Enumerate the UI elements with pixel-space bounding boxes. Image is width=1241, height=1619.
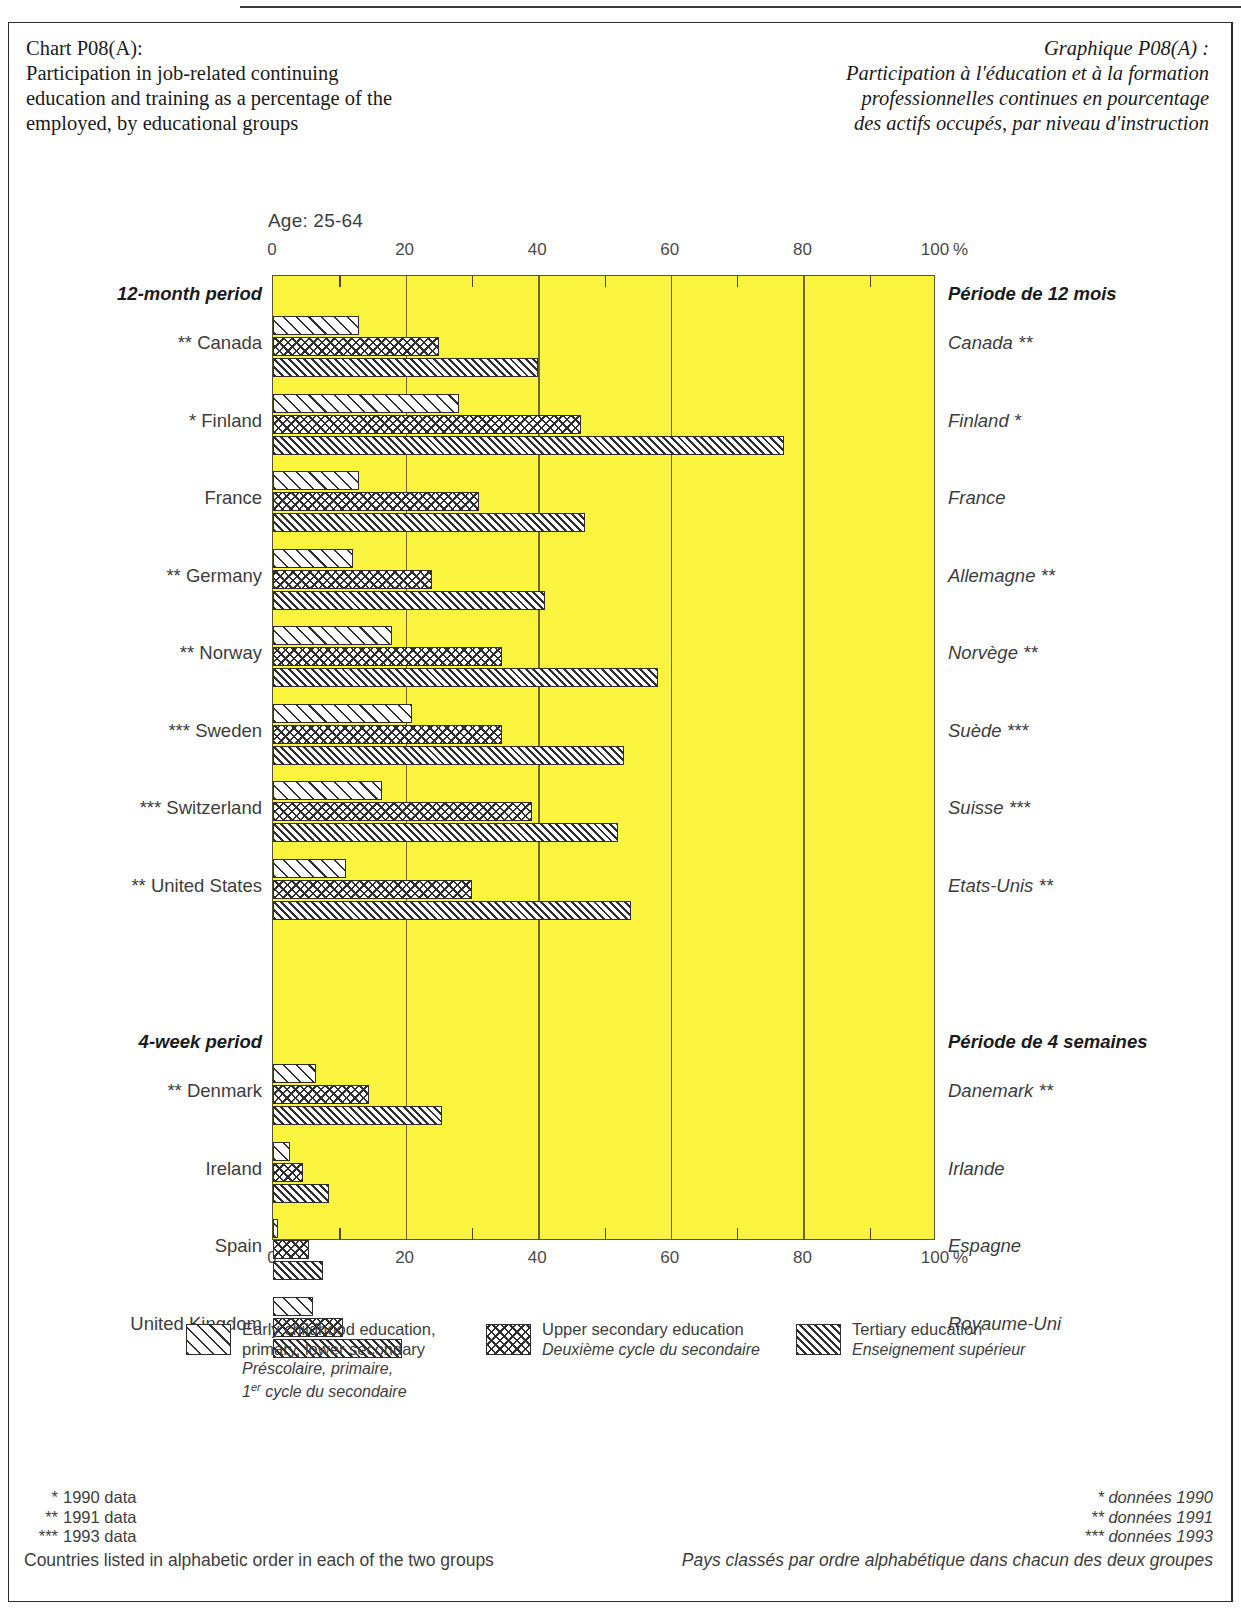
group-heading-en-2: 4-week period bbox=[139, 1031, 262, 1053]
bar-germany-diagonal-wide bbox=[273, 549, 353, 568]
footnote-fr-2: ** données 1991 bbox=[593, 1508, 1213, 1528]
country-label-en-finland: * Finland bbox=[189, 410, 262, 432]
bar-germany-checkerboard bbox=[273, 570, 432, 589]
bar-switzerland-diagonal-tight bbox=[273, 823, 618, 842]
legend-text-tertiary: Tertiary educationEnseignement supérieur bbox=[852, 1320, 1025, 1359]
bar-sweden-diagonal-wide bbox=[273, 704, 412, 723]
top-rule bbox=[240, 6, 1241, 8]
bar-finland-checkerboard bbox=[273, 415, 581, 434]
country-label-en-sweden: *** Sweden bbox=[168, 720, 262, 742]
legend-fr-early-childhood-2: 1er cycle du secondaire bbox=[242, 1378, 436, 1401]
bar-spain-diagonal-wide bbox=[273, 1219, 278, 1238]
legend-text-upper-secondary: Upper secondary educationDeuxième cycle … bbox=[542, 1320, 760, 1359]
minor-tick-70 bbox=[737, 1228, 738, 1239]
footnote-en-1: *1990 data bbox=[24, 1488, 564, 1508]
country-label-fr-allemagne: Allemagne ** bbox=[948, 565, 1055, 587]
minor-tick-90 bbox=[870, 1228, 871, 1239]
x-tick-label-20: 20 bbox=[395, 1248, 414, 1268]
country-label-fr-espagne: Espagne bbox=[948, 1235, 1021, 1257]
minor-tick-90 bbox=[870, 276, 871, 287]
legend-fr-early-childhood-1: Préscolaire, primaire, bbox=[242, 1359, 436, 1378]
x-axis-labels-bottom: 020406080100% bbox=[272, 1248, 935, 1268]
bar-ireland-diagonal-wide bbox=[273, 1142, 290, 1161]
x-tick-label-0: 0 bbox=[267, 240, 276, 260]
bar-ireland-checkerboard bbox=[273, 1163, 303, 1182]
bar-france-diagonal-tight bbox=[273, 513, 585, 532]
group-heading-en-1: 12-month period bbox=[117, 283, 262, 305]
x-tick-label-60: 60 bbox=[660, 1248, 679, 1268]
country-label-en-switzerland: *** Switzerland bbox=[140, 797, 262, 819]
age-range-label: Age: 25-64 bbox=[268, 210, 363, 232]
x-tick-label-100: 100 bbox=[921, 240, 949, 260]
bar-spain-diagonal-tight bbox=[273, 1261, 323, 1280]
legend-swatch-tertiary bbox=[796, 1324, 841, 1355]
footnotes-french: * données 1990** données 1991*** données… bbox=[593, 1488, 1213, 1570]
bar-united-states-diagonal-tight bbox=[273, 901, 631, 920]
footnote-en-stars-3: *** bbox=[24, 1527, 58, 1547]
x-tick-label-80: 80 bbox=[793, 1248, 812, 1268]
group-heading-fr-1: Période de 12 mois bbox=[948, 283, 1117, 305]
bar-norway-checkerboard bbox=[273, 647, 502, 666]
bar-spain-checkerboard bbox=[273, 1240, 309, 1259]
minor-tick-30 bbox=[472, 276, 473, 287]
bar-united-kingdom-diagonal-wide bbox=[273, 1297, 313, 1316]
gridline-60 bbox=[671, 276, 672, 1239]
bar-france-diagonal-wide bbox=[273, 471, 359, 490]
title-en-line-3: education and training as a percentage o… bbox=[26, 86, 586, 111]
bar-switzerland-checkerboard bbox=[273, 802, 532, 821]
country-label-fr-finland: Finland * bbox=[948, 410, 1021, 432]
bar-sweden-checkerboard bbox=[273, 725, 502, 744]
legend-en-early-childhood-2: primary, lower secondary bbox=[242, 1340, 436, 1360]
bar-norway-diagonal-wide bbox=[273, 626, 392, 645]
country-label-en-norway: ** Norway bbox=[180, 642, 262, 664]
x-tick-label-20: 20 bbox=[395, 240, 414, 260]
gridline-80 bbox=[803, 276, 804, 1239]
country-label-fr-irlande: Irlande bbox=[948, 1158, 1005, 1180]
bar-united-states-diagonal-wide bbox=[273, 859, 346, 878]
minor-tick-30 bbox=[472, 1228, 473, 1239]
bar-switzerland-diagonal-wide bbox=[273, 781, 382, 800]
title-fr-line-1: Graphique P08(A) : bbox=[649, 36, 1209, 61]
title-fr-line-2: Participation à l'éducation et à la form… bbox=[649, 61, 1209, 86]
chart-title-french: Graphique P08(A) :Participation à l'éduc… bbox=[649, 36, 1209, 136]
bar-germany-diagonal-tight bbox=[273, 591, 545, 610]
country-label-en-germany: ** Germany bbox=[166, 565, 262, 587]
group-heading-fr-2: Période de 4 semaines bbox=[948, 1031, 1148, 1053]
legend-text-early-childhood: Early childhood education,primary, lower… bbox=[242, 1320, 436, 1401]
bar-france-checkerboard bbox=[273, 492, 479, 511]
bar-finland-diagonal-wide bbox=[273, 394, 459, 413]
bar-denmark-diagonal-wide bbox=[273, 1064, 316, 1083]
country-label-en-canada: ** Canada bbox=[178, 332, 262, 354]
minor-tick-10 bbox=[339, 1228, 340, 1239]
country-label-en-france: France bbox=[204, 487, 262, 509]
footnote-en-3: ***1993 data bbox=[24, 1527, 564, 1547]
country-label-fr-danemark: Danemark ** bbox=[948, 1080, 1053, 1102]
x-axis-labels-top: 020406080100% bbox=[272, 240, 935, 260]
country-label-fr-canada: Canada ** bbox=[948, 332, 1032, 354]
chart-legend: Early childhood education,primary, lower… bbox=[186, 1320, 1186, 1425]
bar-finland-diagonal-tight bbox=[273, 436, 784, 455]
x-tick-label-40: 40 bbox=[528, 240, 547, 260]
x-tick-label-40: 40 bbox=[528, 1248, 547, 1268]
footnote-en-stars-2: ** bbox=[24, 1508, 58, 1528]
footnote-en-note: Countries listed in alphabetic order in … bbox=[24, 1551, 564, 1571]
x-tick-label-100: 100 bbox=[921, 1248, 949, 1268]
title-fr-line-3: professionnelles continues en pourcentag… bbox=[649, 86, 1209, 111]
bar-norway-diagonal-tight bbox=[273, 668, 658, 687]
bar-canada-diagonal-tight bbox=[273, 358, 538, 377]
title-en-line-4: employed, by educational groups bbox=[26, 111, 586, 136]
footnote-en-2: **1991 data bbox=[24, 1508, 564, 1528]
footnotes-english: *1990 data**1991 data***1993 dataCountri… bbox=[24, 1488, 564, 1570]
legend-fr-tertiary-1: Enseignement supérieur bbox=[852, 1340, 1025, 1359]
country-label-fr-suisse: Suisse *** bbox=[948, 797, 1030, 819]
legend-swatch-early-childhood bbox=[186, 1324, 231, 1355]
legend-en-upper-secondary-1: Upper secondary education bbox=[542, 1320, 760, 1340]
country-label-en-ireland: Ireland bbox=[205, 1158, 262, 1180]
minor-tick-50 bbox=[605, 1228, 606, 1239]
bar-ireland-diagonal-tight bbox=[273, 1184, 329, 1203]
legend-fr-superscript: er bbox=[251, 1381, 261, 1393]
title-en-line-2: Participation in job-related continuing bbox=[26, 61, 586, 86]
chart-plot-area bbox=[272, 275, 935, 1240]
legend-swatch-upper-secondary bbox=[486, 1324, 531, 1355]
country-label-fr-suède: Suède *** bbox=[948, 720, 1028, 742]
